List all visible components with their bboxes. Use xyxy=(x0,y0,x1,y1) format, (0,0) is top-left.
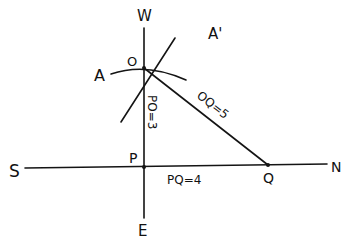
point-p-dot xyxy=(142,165,146,169)
label-oq-length: OQ=5 xyxy=(194,88,231,122)
label-south: S xyxy=(9,161,20,181)
label-west: W xyxy=(137,7,152,25)
label-o: O xyxy=(127,54,137,69)
label-a-prime: A' xyxy=(208,25,222,43)
label-east: E xyxy=(138,222,147,240)
point-q-dot xyxy=(266,163,270,167)
point-o-dot xyxy=(142,66,146,70)
construction-diagram: W E S N O A A' P Q PO=3 OQ=5 PQ=4 xyxy=(0,0,352,242)
label-a: A xyxy=(94,66,105,85)
hypotenuse-oq xyxy=(144,68,268,165)
label-north: N xyxy=(331,159,341,175)
label-pq-length: PQ=4 xyxy=(167,173,201,187)
label-q: Q xyxy=(263,170,274,186)
south-north-line xyxy=(25,164,327,168)
label-p: P xyxy=(129,150,137,166)
label-po-length: PO=3 xyxy=(145,95,159,129)
